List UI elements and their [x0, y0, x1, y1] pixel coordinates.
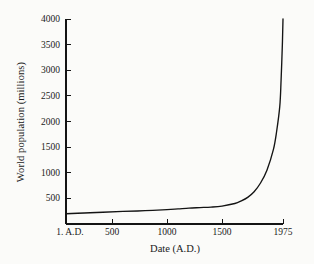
xtick-label-1500: 1500 [204, 227, 240, 237]
population-curve [66, 19, 283, 214]
x-axis-title: Date (A.D.) [66, 242, 284, 255]
world-population-figure: 500 1000 1500 2000 2500 3000 3500 4000 1… [0, 0, 314, 264]
ytick-label-2500: 2500 [26, 91, 60, 101]
ytick-label-3500: 3500 [26, 40, 60, 50]
x-axis-ticks [66, 219, 283, 224]
ytick-label-1000: 1000 [26, 168, 60, 178]
ytick-label-500: 500 [26, 193, 60, 203]
xtick-label-1975: 1975 [265, 227, 301, 237]
y-axis-title: World population (millions) [14, 22, 28, 222]
ytick-label-1500: 1500 [26, 142, 60, 152]
ytick-label-4000: 4000 [26, 14, 60, 24]
y-axis-ticks [66, 19, 71, 198]
xtick-label-1000: 1000 [149, 227, 185, 237]
ytick-label-3000: 3000 [26, 65, 60, 75]
xtick-label-1ad: 1. A.D. [48, 227, 92, 237]
xtick-label-500: 500 [96, 227, 128, 237]
ytick-label-2000: 2000 [26, 117, 60, 127]
